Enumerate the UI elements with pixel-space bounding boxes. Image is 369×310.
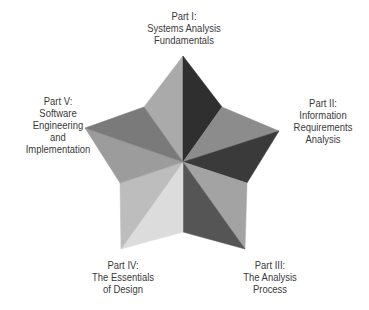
- part-4-line: The Essentials: [78, 271, 168, 283]
- label-part-1: Part I: Systems Analysis Fundamentals: [132, 10, 236, 46]
- part-2-title: Part II:: [284, 97, 361, 109]
- star-diagram: [0, 0, 369, 310]
- part-3-line: The Analysis: [232, 271, 308, 283]
- label-part-3: Part III: The Analysis Process: [232, 259, 308, 295]
- part-5-line: and: [13, 131, 103, 143]
- part-3-line: Process: [232, 283, 308, 295]
- part-1-line: Fundamentals: [132, 34, 236, 46]
- part-4-title: Part IV:: [78, 259, 168, 271]
- label-part-4: Part IV: The Essentials of Design: [78, 259, 168, 295]
- label-part-2: Part II: Information Requirements Analys…: [284, 97, 361, 145]
- part-2-line: Analysis: [284, 133, 361, 145]
- part-5-line: Engineering: [13, 119, 103, 131]
- part-1-title: Part I:: [132, 10, 236, 22]
- part-1-line: Systems Analysis: [132, 22, 236, 34]
- part-2-line: Information: [284, 109, 361, 121]
- part-5-title: Part V:: [13, 95, 103, 107]
- label-part-5: Part V: Software Engineering and Impleme…: [13, 95, 103, 155]
- part-4-line: of Design: [78, 283, 168, 295]
- part-3-title: Part III:: [232, 259, 308, 271]
- part-2-line: Requirements: [284, 121, 361, 133]
- part-5-line: Software: [13, 107, 103, 119]
- part-5-line: Implementation: [13, 143, 103, 155]
